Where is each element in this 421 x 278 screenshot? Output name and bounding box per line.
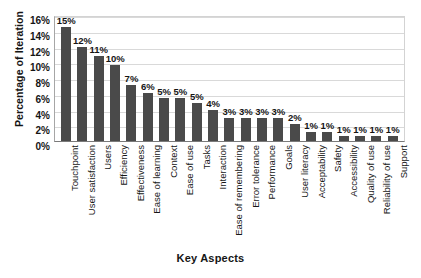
bar-item: 15%: [58, 17, 74, 141]
bar-value-label: 5%: [190, 92, 204, 102]
bar-item: 1%: [336, 17, 352, 141]
bar-item: 4%: [205, 17, 221, 141]
x-axis-title: Key Aspects: [0, 252, 421, 264]
bar-item: 3%: [238, 17, 254, 141]
bar-item: 3%: [270, 17, 286, 141]
bar-value-label: 1%: [370, 125, 384, 135]
bar: [94, 56, 104, 141]
bar: [77, 47, 87, 142]
bar: [61, 27, 71, 141]
bar: [175, 98, 185, 141]
bar-item: 1%: [352, 17, 368, 141]
bar: [241, 118, 251, 141]
x-category-cell: Context: [156, 145, 172, 245]
bar-value-label: 7%: [125, 74, 139, 84]
x-category-cell: Error tolerance: [238, 145, 254, 245]
bar: [388, 136, 398, 142]
x-category-cell: Acceptability: [303, 145, 319, 245]
bar-item: 10%: [107, 17, 123, 141]
bar-item: 6%: [140, 17, 156, 141]
figure-caption: [8, 271, 413, 278]
bar-item: 2%: [287, 17, 303, 141]
y-axis-tick-labels: 16%14%12%10%8%6%4%2%0%: [20, 10, 50, 148]
bar-item: 1%: [319, 17, 335, 141]
bar-value-label: 15%: [57, 16, 76, 26]
bar-item: 3%: [221, 17, 237, 141]
y-tick-label: 2%: [20, 126, 50, 136]
bar: [322, 132, 332, 141]
x-category-cell: Support: [385, 145, 401, 245]
bar-item: 1%: [368, 17, 384, 141]
bar-value-label: 10%: [106, 54, 125, 64]
bar-item: 11%: [91, 17, 107, 141]
y-tick-label: 12%: [20, 48, 50, 58]
bar-item: 5%: [156, 17, 172, 141]
bar-value-label: 5%: [174, 87, 188, 97]
bar-value-label: 3%: [223, 107, 237, 117]
y-tick-label: 16%: [20, 16, 50, 26]
bar: [110, 65, 120, 141]
x-category-cell: Ease of remembering: [221, 145, 237, 245]
x-category-cell: Touchpoint: [57, 145, 73, 245]
bar-value-label: 5%: [157, 87, 171, 97]
bar-value-label: 1%: [353, 125, 367, 135]
y-tick-label: 0%: [20, 142, 50, 152]
bar: [159, 98, 169, 141]
x-category-cell: Performance: [254, 145, 270, 245]
bar-chart-figure: Percentage of Iteration 16%14%12%10%8%6%…: [0, 0, 421, 278]
bar-item: 1%: [303, 17, 319, 141]
bar-item: 3%: [254, 17, 270, 141]
bar-series: 15%12%11%10%7%6%5%5%5%4%3%3%3%3%2%1%1%1%…: [55, 17, 404, 141]
bar: [257, 118, 267, 141]
bar: [371, 136, 381, 142]
bar-item: 5%: [172, 17, 188, 141]
bar-item: 1%: [385, 17, 401, 141]
y-tick-label: 8%: [20, 79, 50, 89]
x-category-cell: Effectiveness: [123, 145, 139, 245]
plot-area: 15%12%11%10%7%6%5%5%5%4%3%3%3%3%2%1%1%1%…: [54, 16, 405, 142]
x-category-cell: Ease of learning: [139, 145, 155, 245]
bar: [306, 132, 316, 141]
x-category-cell: Safety: [320, 145, 336, 245]
bar-value-label: 3%: [255, 107, 269, 117]
bar-value-label: 6%: [141, 82, 155, 92]
bar: [143, 93, 153, 141]
x-category-cell: Interaction: [205, 145, 221, 245]
y-tick-label: 10%: [20, 63, 50, 73]
y-tick-label: 4%: [20, 111, 50, 121]
x-category-cell: Accessibility: [336, 145, 352, 245]
y-tick-label: 6%: [20, 95, 50, 105]
x-category-cell: Quality of use: [353, 145, 369, 245]
x-category-cell: Goals: [270, 145, 286, 245]
bar-value-label: 4%: [206, 99, 220, 109]
bar-value-label: 1%: [304, 121, 318, 131]
bar: [192, 103, 202, 141]
x-category-cell: User literacy: [287, 145, 303, 245]
bar: [208, 110, 218, 142]
x-category-cell: Users: [90, 145, 106, 245]
bar: [273, 118, 283, 141]
x-category-cell: User satisfaction: [73, 145, 89, 245]
bar: [290, 124, 300, 141]
x-category-cell: Ease of use: [172, 145, 188, 245]
bar: [339, 136, 349, 142]
bar: [355, 136, 365, 142]
bar-value-label: 1%: [337, 125, 351, 135]
bar-item: 12%: [74, 17, 90, 141]
bar-value-label: 1%: [386, 125, 400, 135]
bar-value-label: 1%: [321, 121, 335, 131]
bar-value-label: 2%: [288, 113, 302, 123]
x-category-cell: Tasks: [188, 145, 204, 245]
bar: [224, 118, 234, 141]
bar-value-label: 3%: [272, 107, 286, 117]
bar: [126, 85, 136, 141]
x-category-label: Support: [398, 145, 409, 178]
x-category-cell: Efficiency: [106, 145, 122, 245]
bar-item: 7%: [123, 17, 139, 141]
x-category-cell: Reliability of use: [369, 145, 385, 245]
y-tick-label: 14%: [20, 32, 50, 42]
x-axis-category-labels: TouchpointUser satisfactionUsersEfficien…: [54, 145, 405, 245]
bar-value-label: 3%: [239, 107, 253, 117]
bar-item: 5%: [189, 17, 205, 141]
